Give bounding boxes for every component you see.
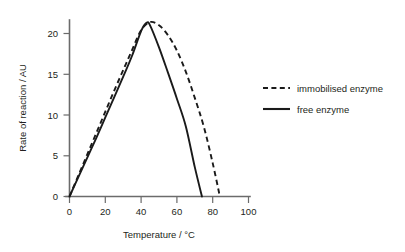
x-tick-label-60: 60 xyxy=(172,206,183,217)
enzyme-rate-chart: 0 5 10 15 20 0 20 40 60 80 100 Temperatu… xyxy=(0,0,405,252)
y-tick-label-10: 10 xyxy=(47,110,58,121)
y-tick-label-5: 5 xyxy=(53,150,58,161)
y-tick-label-20: 20 xyxy=(47,28,58,39)
y-axis-title: Rate of reaction / AU xyxy=(17,64,28,152)
x-tick-label-20: 20 xyxy=(100,206,111,217)
series-line-free-enzyme xyxy=(70,22,202,196)
chart-legend: immobilised enzyme free enzyme xyxy=(263,83,383,115)
x-tick-label-80: 80 xyxy=(207,206,218,217)
legend-label-free-enzyme: free enzyme xyxy=(297,104,349,115)
series-line-immobilised-enzyme xyxy=(70,22,220,197)
chart-canvas: 0 5 10 15 20 0 20 40 60 80 100 Temperatu… xyxy=(0,0,405,252)
x-axis-ticks xyxy=(70,197,249,204)
legend-label-immobilised-enzyme: immobilised enzyme xyxy=(297,83,383,94)
x-tick-label-100: 100 xyxy=(241,206,257,217)
x-tick-label-40: 40 xyxy=(136,206,147,217)
y-axis-ticks xyxy=(64,34,70,197)
x-axis-title: Temperature / °C xyxy=(123,229,195,240)
y-tick-label-15: 15 xyxy=(47,69,58,80)
y-tick-label-0: 0 xyxy=(53,191,58,202)
x-tick-label-0: 0 xyxy=(67,206,72,217)
